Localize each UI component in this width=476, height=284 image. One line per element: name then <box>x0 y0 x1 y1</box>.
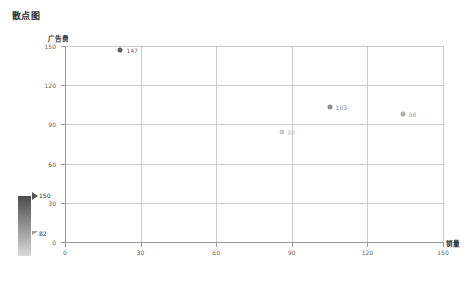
x-tick-mark <box>65 243 66 247</box>
x-tick-label: 0 <box>63 249 67 256</box>
x-tick-mark <box>141 243 142 247</box>
x-tick-label: 150 <box>437 249 448 256</box>
chart-title: 散点图 <box>12 9 40 22</box>
y-axis-title: 广告费 <box>48 33 69 43</box>
data-point-label: 147 <box>126 46 137 53</box>
x-tick-label: 90 <box>288 249 296 256</box>
y-tick-label: 120 <box>0 82 56 89</box>
data-point[interactable] <box>118 47 123 52</box>
x-tick-label: 120 <box>362 249 373 256</box>
data-point[interactable] <box>279 130 284 135</box>
visual-map-gradient-bar[interactable] <box>18 196 31 256</box>
grid-line-vertical <box>292 46 293 242</box>
x-axis-title: 销量 <box>446 238 460 248</box>
plot-area: 1471039884 <box>65 46 443 242</box>
y-tick-label: 90 <box>0 121 56 128</box>
x-tick-label: 60 <box>212 249 220 256</box>
visual-map-max-handle-icon[interactable] <box>32 192 38 200</box>
y-tick-mark <box>61 164 65 165</box>
y-tick-mark <box>61 46 65 47</box>
x-tick-mark <box>216 243 217 247</box>
y-axis-line <box>65 46 66 243</box>
data-point-label: 84 <box>288 129 296 136</box>
x-tick-mark <box>367 243 368 247</box>
data-point-label: 98 <box>409 110 417 117</box>
y-tick-mark <box>61 124 65 125</box>
grid-line-horizontal <box>65 164 443 165</box>
data-point-label: 103 <box>336 104 347 111</box>
grid-line-horizontal <box>65 85 443 86</box>
grid-line-vertical <box>367 46 368 242</box>
scatter-chart: 散点图 广告费 销量 1471039884 0306090120150 0306… <box>0 0 476 284</box>
x-tick-mark <box>292 243 293 247</box>
grid-line-horizontal <box>65 124 443 125</box>
data-point[interactable] <box>327 105 332 110</box>
visual-map-min-handle-icon[interactable] <box>32 231 38 235</box>
data-point[interactable] <box>400 111 405 116</box>
y-tick-mark <box>61 85 65 86</box>
x-tick-label: 30 <box>137 249 145 256</box>
grid-line-vertical <box>216 46 217 242</box>
visual-map-max-label: 150 <box>39 192 50 199</box>
x-axis-line <box>65 242 444 243</box>
y-tick-label: 60 <box>0 160 56 167</box>
grid-line-horizontal <box>65 203 443 204</box>
grid-line-vertical <box>443 46 444 242</box>
visual-map-min-label: 82 <box>39 230 47 237</box>
y-tick-label: 150 <box>0 43 56 50</box>
grid-line-vertical <box>141 46 142 242</box>
visual-map[interactable]: 150 82 <box>12 190 62 260</box>
x-tick-mark <box>443 243 444 247</box>
